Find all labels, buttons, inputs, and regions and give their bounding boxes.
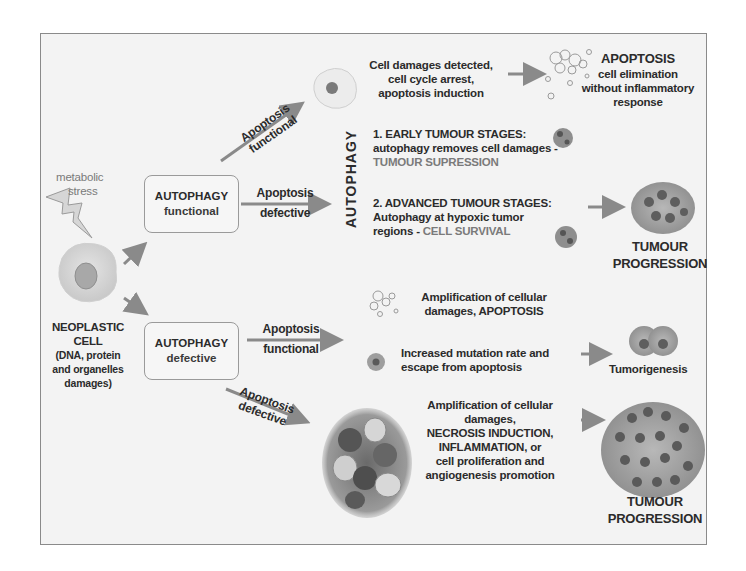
cell-desc-line1: (DNA, protein: [48, 348, 128, 362]
arrow-label-line2: functional: [249, 342, 333, 356]
arrow-label-line1: Apoptosis: [243, 186, 327, 200]
stress-label-line2: stress: [56, 184, 103, 198]
amplification-apoptosis-text: Amplification of cellular damages, APOPT…: [404, 290, 564, 318]
damage-detection-text: Cell damages detected, cell cycle arrest…: [356, 58, 506, 100]
apoptosis-line3: response: [570, 95, 706, 109]
necrosis-line4: INFLAMMATION, or: [410, 440, 570, 454]
progression-line2: PROGRESSION: [600, 510, 710, 527]
progression-line1: TUMOUR: [610, 238, 710, 255]
stress-label-line1: metabolic: [56, 170, 103, 184]
apoptosis-defective-top-label: Apoptosis defective: [243, 186, 327, 220]
small-tumour-icon-advanced: [555, 226, 577, 248]
early-line2: autophagy removes cell damages -: [373, 141, 558, 155]
progression-line2: PROGRESSION: [610, 255, 710, 272]
arrow-label-line1: Apoptosis: [249, 322, 333, 336]
necrosis-line1: Amplification of cellular: [410, 398, 570, 412]
advanced-line1: 2. ADVANCED TUMOUR STAGES:: [373, 196, 552, 210]
tumorigenesis-cells-icon: [629, 326, 678, 356]
mut-line1: Increased mutation rate and: [401, 346, 549, 360]
apoptosis-line1: cell elimination: [570, 67, 706, 81]
advanced-line3-prefix: regions -: [373, 225, 423, 237]
apoptotic-bodies-icon-lower: [370, 291, 398, 317]
mut-line2: escape from apoptosis: [401, 360, 549, 374]
mutation-escape-text: Increased mutation rate and escape from …: [401, 346, 549, 374]
detect-line2: cell cycle arrest,: [356, 72, 506, 86]
neoplastic-cell-label: NEOPLASTIC CELL (DNA, protein and organe…: [48, 320, 128, 390]
tumorigenesis-label: Tumorigenesis: [609, 362, 687, 376]
necrosis-line6: angiogenesis promotion: [410, 468, 570, 482]
detect-line1: Cell damages detected,: [356, 58, 506, 72]
tumour-progression-bottom-label: TUMOUR PROGRESSION: [600, 493, 710, 527]
tumour-progression-top-label: TUMOUR PROGRESSION: [610, 238, 710, 272]
box-title: AUTOPHAGY: [155, 189, 228, 204]
cell-survival-highlight: CELL SURVIVAL: [423, 225, 511, 237]
cell-icon: [314, 68, 357, 108]
tumour-cluster-icon-top: [631, 182, 695, 234]
apoptosis-title: APOPTOSIS: [570, 50, 706, 67]
autophagy-functional-box: AUTOPHAGY functional: [144, 175, 239, 233]
early-line3: TUMOUR SUPRESSION: [373, 155, 558, 169]
apoptosis-line2: without inflammatory: [570, 81, 706, 95]
necrosis-outcome-text: Amplification of cellular damages, NECRO…: [410, 398, 570, 482]
cell-title-line1: NEOPLASTIC: [48, 320, 128, 334]
box-title: AUTOPHAGY: [155, 336, 228, 351]
box-state: defective: [167, 351, 217, 366]
necrosis-line5: cell proliferation and: [410, 454, 570, 468]
necrosis-line2: damages,: [410, 412, 570, 426]
tumour-cluster-icon-bottom: [601, 402, 705, 498]
amp-line2: damages, APOPTOSIS: [404, 304, 564, 318]
early-tumour-stages-text: 1. EARLY TUMOUR STAGES: autophagy remove…: [373, 127, 558, 169]
advanced-line2: Autophagy at hypoxic tumor: [373, 210, 552, 224]
progression-line1: TUMOUR: [600, 493, 710, 510]
metabolic-stress-label: metabolic stress: [56, 170, 103, 198]
mutated-cell-icon: [367, 353, 385, 371]
necrosis-line3: NECROSIS INDUCTION,: [410, 426, 570, 440]
cell-title-line2: CELL: [48, 334, 128, 348]
apoptosis-outcome-text: APOPTOSIS cell elimination without infla…: [570, 50, 706, 109]
arrow-label-line2: defective: [243, 206, 327, 220]
autophagy-defective-box: AUTOPHAGY defective: [144, 322, 239, 380]
box-state: functional: [164, 204, 219, 219]
cell-desc-line2: and organelles: [48, 362, 128, 376]
early-line1: 1. EARLY TUMOUR STAGES:: [373, 127, 558, 141]
necrotic-cluster-icon: [322, 408, 412, 518]
advanced-tumour-stages-text: 2. ADVANCED TUMOUR STAGES: Autophagy at …: [373, 196, 552, 238]
detect-line3: apoptosis induction: [356, 86, 506, 100]
cell-desc-line3: damages): [48, 376, 128, 390]
apoptosis-functional-bottom-label: Apoptosis functional: [249, 322, 333, 356]
autophagy-vertical-label: AUTOPHAGY: [343, 130, 359, 228]
neoplastic-cell-icon: [59, 243, 117, 302]
amp-line1: Amplification of cellular: [404, 290, 564, 304]
